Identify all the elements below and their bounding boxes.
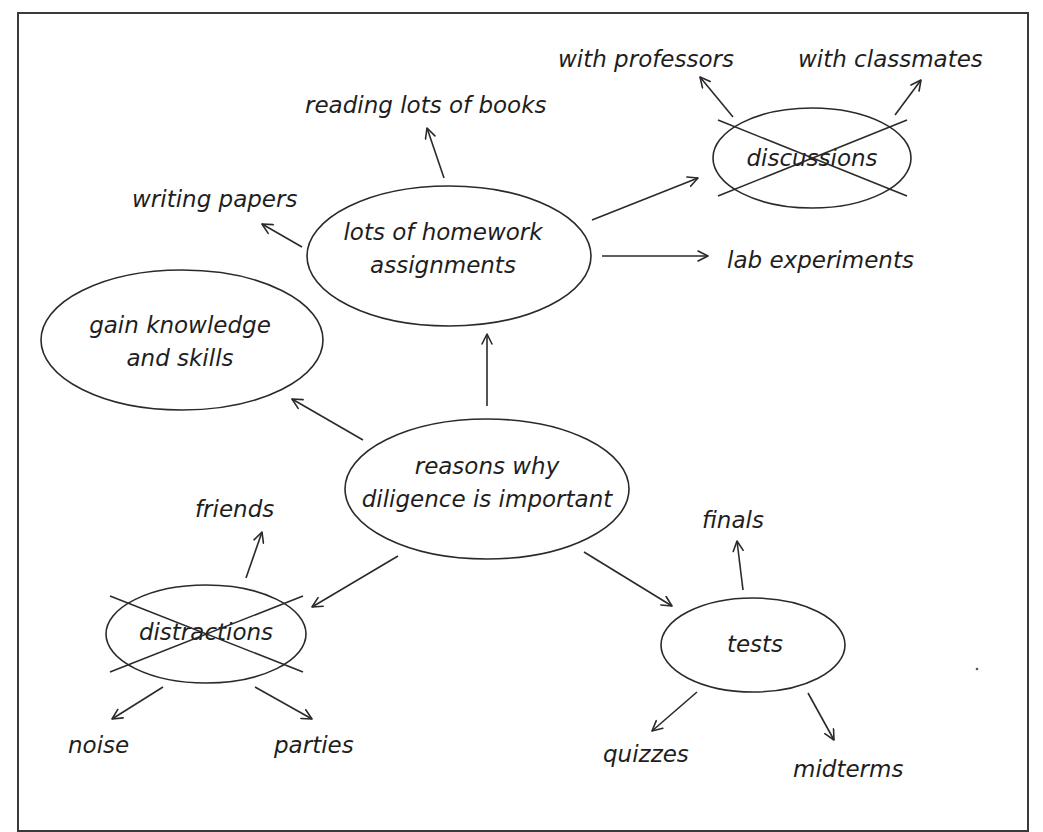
gain-label-line1: gain knowledge — [89, 312, 271, 338]
leaf-writing: writing papers — [132, 186, 297, 212]
arrow-tests-to-finals — [737, 541, 743, 590]
leaf-classmates: with classmates — [798, 46, 983, 72]
arrow-center-to-gain — [292, 399, 363, 440]
node-homework: lots of homework assignments — [307, 186, 591, 326]
arrow-discussions-to-professors — [700, 77, 733, 117]
arrow-homework-to-discussions — [592, 178, 698, 220]
node-discussions: discussions — [713, 108, 911, 208]
arrow-center-to-tests — [584, 552, 672, 606]
arrow-tests-to-quizzes — [652, 692, 697, 731]
stray-dot — [976, 668, 979, 671]
leaf-professors: with professors — [558, 46, 734, 72]
homework-label-line2: assignments — [370, 252, 516, 278]
arrow-distractions-to-friends — [246, 532, 262, 578]
arrow-distractions-to-noise — [112, 687, 163, 719]
arrow-homework-to-writing — [262, 224, 302, 247]
tests-label: tests — [727, 631, 783, 657]
homework-label-line1: lots of homework — [343, 219, 544, 245]
arrow-tests-to-midterms — [808, 693, 834, 740]
leaf-friends: friends — [195, 496, 274, 522]
distractions-label: distractions — [139, 619, 273, 645]
leaf-noise: noise — [68, 732, 129, 758]
center-label-line1: reasons why — [415, 453, 560, 479]
gain-ellipse — [41, 270, 323, 410]
leaf-lab: lab experiments — [727, 247, 914, 273]
node-tests: tests — [661, 598, 845, 692]
node-gain: gain knowledge and skills — [41, 270, 323, 410]
leaf-reading: reading lots of books — [305, 92, 546, 118]
leaf-quizzes: quizzes — [603, 741, 689, 767]
node-center: reasons why diligence is important — [345, 419, 629, 559]
node-distractions: distractions — [106, 585, 306, 683]
gain-label-line2: and skills — [126, 345, 233, 371]
arrow-distractions-to-parties — [255, 687, 312, 719]
arrow-center-to-distractions — [312, 556, 398, 607]
arrow-homework-to-reading — [427, 128, 444, 178]
leaf-midterms: midterms — [793, 756, 903, 782]
leaf-finals: finals — [702, 507, 764, 533]
arrow-discussions-to-classmates — [895, 80, 921, 115]
center-label-line2: diligence is important — [362, 486, 614, 512]
leaf-parties: parties — [273, 732, 354, 758]
